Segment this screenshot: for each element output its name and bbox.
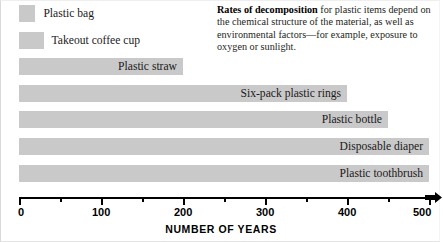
axis-tick-major [347,197,349,205]
axis-title: NUMBER OF YEARS [1,223,441,235]
axis-tick-minor [60,197,62,202]
bar-label: Plastic straw [118,58,177,75]
axis-tick-minor [142,197,144,202]
axis-tick-major [183,197,185,205]
bar-label: Plastic bag [43,5,94,22]
bar-label: Plastic bottle [322,111,382,128]
axis-tick-major [265,197,267,205]
axis-tick-major [101,197,103,205]
bar-label: Takeout coffee cup [52,32,140,49]
axis-tick-minor [224,197,226,202]
axis-tick-minor [388,197,390,202]
bar-label: Disposable diaper [340,138,423,155]
axis-tick-label: 400 [338,206,356,218]
bar-label: Six-pack plastic rings [241,85,341,102]
bar [19,32,44,49]
axis-tick-major [19,197,21,205]
bar-label: Plastic toothbrush [340,165,423,182]
caption-lead: Rates of decomposition [217,4,318,15]
axis-tick-minor [306,197,308,202]
axis-tick-label: 0 [18,206,24,218]
caption-text: Rates of decomposition for plastic items… [217,4,435,54]
axis-tick-label: 300 [256,206,274,218]
axis-tick-label: 500 [413,206,431,218]
axis-tick-label: 200 [174,206,192,218]
axis-tick-major [429,197,431,205]
axis-arrow-icon [425,192,443,204]
bar [19,5,35,22]
x-axis: 0100200300400500 NUMBER OF YEARS [1,197,441,242]
axis-tick-label: 100 [92,206,110,218]
